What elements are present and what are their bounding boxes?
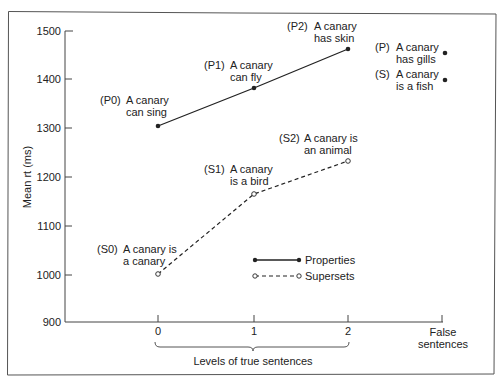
- y-tick-labels: 1500 1400 1300 1200 1100 1000 900: [37, 25, 61, 328]
- p1-line2: can fly: [230, 71, 262, 83]
- p1-line1: A canary: [230, 59, 273, 71]
- s0-tag: (S0): [97, 243, 118, 255]
- p1-tag: (P1): [204, 59, 225, 71]
- pf-line1: A canary: [396, 41, 439, 53]
- legend-supersets: Supersets: [305, 270, 355, 282]
- y-ticks: [65, 31, 73, 275]
- ytick-900: 900: [43, 316, 61, 328]
- chart: 1500 1400 1300 1200 1100 1000 900 Mean r…: [0, 0, 500, 391]
- legend: Properties Supersets: [253, 254, 356, 282]
- xtick-false-line1: False: [430, 326, 457, 338]
- s1-tag: (S1): [204, 163, 225, 175]
- x-tick-labels: 0 1 2 False sentences: [155, 325, 469, 350]
- s1-line1: A canary: [230, 163, 273, 175]
- xtick-1: 1: [251, 325, 257, 337]
- false-markers: [443, 51, 448, 83]
- pf-tag: (P): [375, 41, 390, 53]
- xtick-2: 2: [345, 325, 351, 337]
- s2-tag: (S2): [279, 132, 300, 144]
- ytick-1400: 1400: [37, 73, 61, 85]
- ytick-1300: 1300: [37, 122, 61, 134]
- ytick-1000: 1000: [37, 269, 61, 281]
- xtick-0: 0: [155, 325, 161, 337]
- p2-line2: has skin: [314, 32, 354, 44]
- pf-line2: has gills: [396, 53, 436, 65]
- y-axis-label: Mean rt (ms): [21, 146, 33, 208]
- p2-line1: A canary: [314, 20, 357, 32]
- x-axis-label: Levels of true sentences: [193, 355, 313, 367]
- p0-line1: A canary: [126, 94, 169, 106]
- p0-line2: can sing: [126, 106, 167, 118]
- sf-tag: (S): [375, 68, 390, 80]
- ytick-1500: 1500: [37, 25, 61, 37]
- chart-border: [8, 11, 239, 12]
- s1-line2: is a bird: [230, 175, 269, 187]
- sf-line2: is a fish: [396, 80, 433, 92]
- s0-line2: a canary: [123, 255, 166, 267]
- s0-line1: A canary is: [123, 243, 177, 255]
- ytick-1100: 1100: [37, 220, 61, 232]
- levels-brace: [155, 342, 349, 351]
- legend-properties: Properties: [305, 254, 356, 266]
- p2-tag: (P2): [287, 20, 308, 32]
- sf-line1: A canary: [396, 68, 439, 80]
- xtick-false-line2: sentences: [418, 338, 469, 350]
- annotations: (P0) A canary can sing (P1) A canary can…: [97, 20, 439, 267]
- x-ticks: [158, 315, 442, 322]
- ytick-1200: 1200: [37, 171, 61, 183]
- p0-tag: (P0): [100, 94, 121, 106]
- s2-line2: an animal: [304, 144, 352, 156]
- s2-line1: A canary is: [304, 132, 358, 144]
